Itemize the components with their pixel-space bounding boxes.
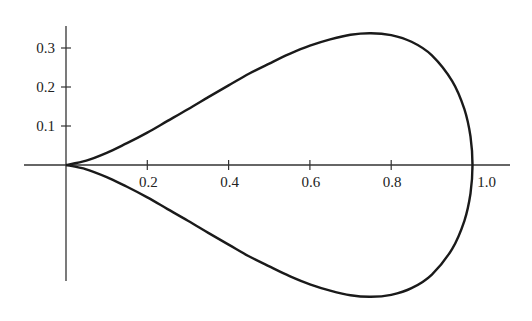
x-tick-label: 0.2 — [139, 174, 158, 190]
x-tick-label: 0.8 — [383, 174, 402, 190]
x-tick-label: 0.4 — [220, 174, 239, 190]
y-tick-label: 0.2 — [36, 79, 55, 95]
teardrop-chart: 0.20.40.60.81.0 0.10.20.3 — [0, 0, 532, 321]
y-tick-label: 0.3 — [36, 40, 55, 56]
y-tick-label: 0.1 — [36, 118, 55, 134]
x-tick-label: 1.0 — [477, 174, 496, 190]
x-tick-label: 0.6 — [302, 174, 321, 190]
